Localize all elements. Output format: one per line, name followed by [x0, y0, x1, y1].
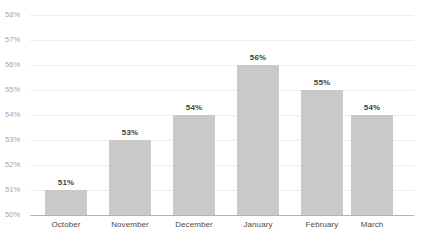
x-axis-label-november: November — [99, 219, 161, 231]
y-axis-tick-55: 55% — [5, 85, 29, 94]
bar-value-february: 55% — [301, 78, 343, 88]
bar-february[interactable] — [301, 90, 343, 215]
bar-november[interactable] — [109, 140, 151, 215]
y-axis-tick-54: 54% — [5, 110, 29, 119]
bar-value-december: 54% — [173, 103, 215, 113]
y-axis-tick-50: 50% — [5, 210, 29, 219]
bar-march[interactable] — [351, 115, 393, 215]
bar-value-october: 51% — [45, 178, 87, 188]
y-axis-tick-58: 58% — [5, 10, 29, 19]
gridline-56 — [30, 65, 414, 66]
y-axis-tick-52: 52% — [5, 160, 29, 169]
x-axis-label-january: January — [227, 219, 289, 231]
gridline-57 — [30, 40, 414, 41]
x-axis-label-march: March — [341, 219, 403, 231]
gridline-58 — [30, 15, 414, 16]
y-axis-tick-57: 57% — [5, 35, 29, 44]
bar-value-november: 53% — [109, 128, 151, 138]
bar-value-march: 54% — [351, 103, 393, 113]
x-axis-label-december: December — [163, 219, 225, 231]
y-axis-tick-51: 51% — [5, 185, 29, 194]
bar-value-january: 56% — [237, 53, 279, 63]
x-axis-label-october: October — [35, 219, 97, 231]
y-axis-tick-56: 56% — [5, 60, 29, 69]
bar-chart: 58% 57% 56% 55% 54% 53% 52% 51% 50% 51% … — [0, 0, 421, 240]
gridline-55 — [30, 90, 414, 91]
bar-december[interactable] — [173, 115, 215, 215]
bar-october[interactable] — [45, 190, 87, 215]
x-axis-line — [30, 215, 414, 216]
bar-january[interactable] — [237, 65, 279, 215]
y-axis-tick-53: 53% — [5, 135, 29, 144]
